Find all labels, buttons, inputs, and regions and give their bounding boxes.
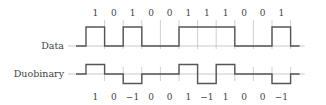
data-bit-label: 1 xyxy=(185,8,191,18)
data-bit-label: 0 xyxy=(111,8,117,18)
data-bit-label: 1 xyxy=(204,8,210,18)
data-bit-label: 0 xyxy=(241,8,247,18)
duobinary-symbol-label: −1 xyxy=(275,92,288,102)
data-bit-label: 0 xyxy=(260,8,266,18)
data-bit-label: 0 xyxy=(167,8,173,18)
duobinary-symbol-label: −1 xyxy=(200,92,213,102)
data-bit-label: 0 xyxy=(148,8,154,18)
data-bit-label: 1 xyxy=(130,8,136,18)
duobinary-diagram: DataDuobinary1010011100110−1001−1100−1 xyxy=(0,0,326,105)
waveform-figure: DataDuobinary1010011100110−1001−1100−1 xyxy=(0,0,326,105)
duobinary-symbol-label: 1 xyxy=(223,92,229,102)
duobinary-symbol-label: 0 xyxy=(111,92,117,102)
data-bit-label: 1 xyxy=(92,8,98,18)
data-bit-label: 1 xyxy=(223,8,229,18)
data-bit-labels: 10100111001 xyxy=(92,8,284,18)
data-row-label: Data xyxy=(41,40,64,51)
data-bit-label: 1 xyxy=(278,8,284,18)
duobinary-symbol-label: 0 xyxy=(167,92,173,102)
duobinary-symbol-label: 0 xyxy=(241,92,247,102)
duobinary-row-label: Duobinary xyxy=(14,68,65,79)
data-waveform xyxy=(68,20,305,49)
duobinary-symbol-labels: 10−1001−1100−1 xyxy=(92,92,288,102)
duobinary-waveform xyxy=(68,65,305,84)
duobinary-symbol-label: 0 xyxy=(148,92,154,102)
duobinary-symbol-label: 0 xyxy=(260,92,266,102)
duobinary-symbol-label: 1 xyxy=(92,92,98,102)
duobinary-symbol-label: 1 xyxy=(185,92,191,102)
duobinary-symbol-label: −1 xyxy=(126,92,139,102)
